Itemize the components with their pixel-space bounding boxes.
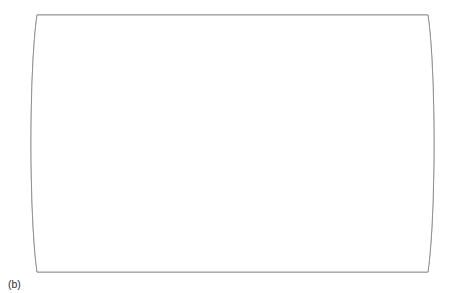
world-map-svg: 23½°N 0° 23½°S Intermediate environments… bbox=[0, 0, 454, 293]
map-frame-outline bbox=[31, 15, 434, 272]
figure-caption: (b) bbox=[8, 278, 21, 290]
figure-world-map: 23½°N 0° 23½°S Intermediate environments… bbox=[0, 0, 454, 293]
